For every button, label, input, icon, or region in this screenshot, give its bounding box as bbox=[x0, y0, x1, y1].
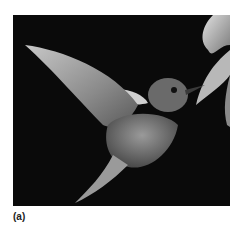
bird-eye bbox=[171, 87, 177, 93]
bird-head bbox=[148, 78, 188, 112]
hummingbird-photo bbox=[13, 15, 230, 206]
panel-label: (a) bbox=[13, 211, 25, 222]
